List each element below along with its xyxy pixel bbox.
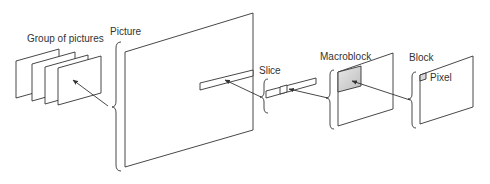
block-label: Block — [409, 52, 434, 63]
block-group: Block Pixel — [408, 52, 473, 128]
macroblock-brace — [326, 70, 334, 129]
gop-label: Group of pictures — [27, 33, 104, 44]
slice-group: Slice — [259, 65, 328, 113]
picture-label: Picture — [110, 26, 142, 37]
block-frame — [420, 56, 473, 124]
slice-label: Slice — [259, 65, 281, 76]
picture-brace — [112, 42, 121, 171]
macroblock-group: Macroblock — [320, 51, 410, 129]
hierarchy-diagram: Group of pictures Picture Slice Macroblo… — [0, 0, 490, 184]
pixel-label: Pixel — [430, 72, 452, 83]
slice-macroblock-box — [280, 85, 287, 94]
slice-arrow — [289, 89, 328, 98]
picture-group: Picture — [110, 13, 261, 171]
slice-bar — [266, 78, 316, 98]
picture-frame — [125, 13, 253, 167]
macroblock-label: Macroblock — [320, 51, 372, 62]
gop-group: Group of pictures — [16, 33, 108, 106]
